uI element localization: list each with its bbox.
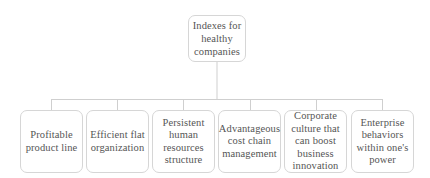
child-node-profitable-product-line: Profitable product line bbox=[20, 110, 83, 173]
child-node-corporate-culture: Corporate culture that can boost busines… bbox=[284, 110, 347, 173]
child-node-enterprise-behaviors: Enterprise behaviors within one's power bbox=[351, 110, 414, 173]
child-node-label: Persistent human resources structure bbox=[156, 117, 211, 167]
root-node-label: Indexes for healthy companies bbox=[192, 19, 242, 58]
org-diagram: Indexes for healthy companies Profitable… bbox=[0, 0, 430, 178]
child-node-label: Profitable product line bbox=[24, 129, 79, 154]
child-node-label: Advantageous cost chain management bbox=[219, 123, 280, 161]
child-node-efficient-flat-organization: Efficient flat organization bbox=[86, 110, 149, 173]
child-node-label: Enterprise behaviors within one's power bbox=[355, 117, 410, 167]
child-node-label: Corporate culture that can boost busines… bbox=[288, 110, 343, 173]
child-node-persistent-hr-structure: Persistent human resources structure bbox=[152, 110, 215, 173]
child-node-cost-chain-management: Advantageous cost chain management bbox=[218, 110, 281, 173]
child-node-label: Efficient flat organization bbox=[90, 129, 145, 154]
root-node: Indexes for healthy companies bbox=[188, 15, 246, 62]
